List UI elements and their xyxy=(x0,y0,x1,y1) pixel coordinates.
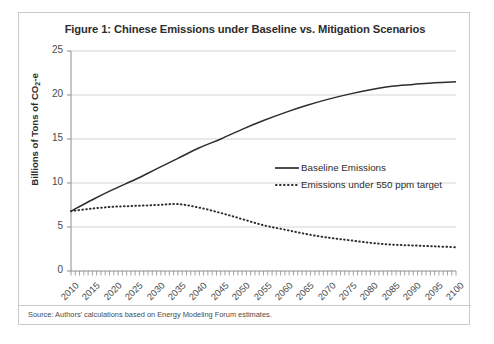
y-tick-label: 0 xyxy=(37,264,63,275)
y-tick-label: 5 xyxy=(37,220,63,231)
x-axis-minor-ticks xyxy=(71,271,456,276)
y-tick-label: 15 xyxy=(37,132,63,143)
chart-legend: Baseline Emissions Emissions under 550 p… xyxy=(274,159,442,193)
y-tick-label: 25 xyxy=(37,44,63,55)
chart-canvas xyxy=(19,13,471,303)
legend-key-dotted-line xyxy=(274,180,300,190)
source-note: Source: Authors' calculations based on E… xyxy=(28,310,272,319)
legend-label-baseline: Baseline Emissions xyxy=(301,162,386,173)
y-tick-label: 20 xyxy=(37,88,63,99)
series-line-550ppm-target xyxy=(71,204,456,247)
legend-item-baseline: Baseline Emissions xyxy=(274,159,442,176)
legend-label-mitigation: Emissions under 550 ppm target xyxy=(301,179,442,190)
plot-area: Billions of Tons of CO2-e 0510152025 201… xyxy=(19,13,471,303)
figure-container: Figure 1: Chinese Emissions under Baseli… xyxy=(18,12,470,325)
y-tick-label: 10 xyxy=(37,176,63,187)
legend-item-mitigation: Emissions under 550 ppm target xyxy=(274,176,442,193)
legend-key-solid-line xyxy=(274,163,300,173)
source-divider xyxy=(19,305,471,306)
